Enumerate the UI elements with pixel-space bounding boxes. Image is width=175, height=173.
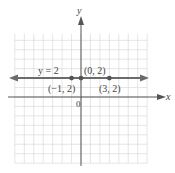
- left-arrow-icon: [9, 75, 18, 82]
- origin-label: 0: [76, 100, 81, 109]
- right-arrow-icon: [140, 75, 149, 82]
- x-axis-arrow-icon: [157, 94, 166, 100]
- y-axis-arrow-icon: [78, 16, 84, 25]
- data-point: [107, 76, 112, 81]
- point-label-3-2: (3, 2): [99, 84, 121, 94]
- x-axis: [8, 94, 166, 100]
- point-label-neg1-2: (−1, 2): [48, 84, 75, 94]
- x-axis-label: x: [166, 92, 170, 102]
- data-point: [69, 76, 74, 81]
- equation-label: y = 2: [38, 66, 59, 76]
- y-axis-label: y: [77, 6, 81, 16]
- y-axis: [78, 16, 84, 166]
- point-label-0-2: (0, 2): [84, 66, 106, 76]
- coordinate-plane: [0, 0, 175, 173]
- data-point: [79, 76, 84, 81]
